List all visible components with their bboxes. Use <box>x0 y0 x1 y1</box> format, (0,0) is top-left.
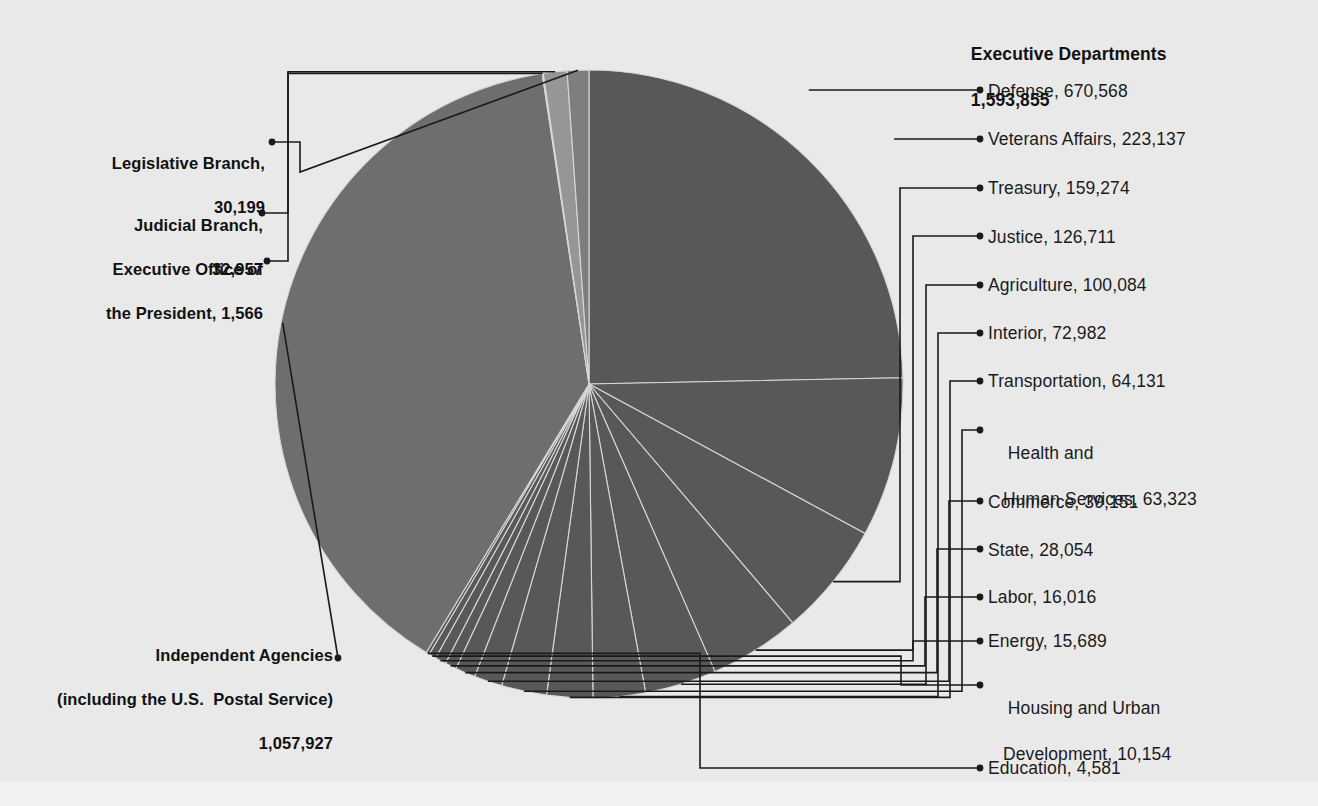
leader-dot <box>977 765 984 772</box>
label-education: Education, 4,581 <box>988 757 1121 780</box>
label-interior: Interior, 72,982 <box>988 322 1106 345</box>
label-housing-and-urban-development: Housing and Urban Development, 10,154 <box>988 674 1171 806</box>
label-commerce: Commerce, 39,151 <box>988 491 1138 514</box>
label-eop-line2: the President, 1,566 <box>106 304 263 322</box>
leader-dot <box>977 546 984 553</box>
label-eop-line1: Executive Office of <box>113 260 263 278</box>
label-justice: Justice, 126,711 <box>988 226 1116 249</box>
leader-dot <box>977 427 984 434</box>
group-title-executive-departments: Executive Departments 1,593,855 <box>951 20 1167 135</box>
label-agriculture: Agriculture, 100,084 <box>988 274 1147 297</box>
label-independent-line2: (including the U.S. Postal Service) <box>57 690 333 708</box>
label-executive-office-of-the-president: Executive Office of the President, 1,566 <box>20 236 263 346</box>
leader-dot <box>977 682 984 689</box>
leader-dot <box>264 258 271 265</box>
leader-dot <box>977 378 984 385</box>
label-transportation: Transportation, 64,131 <box>988 370 1166 393</box>
leader-dot <box>977 185 984 192</box>
leader-dot <box>977 594 984 601</box>
pie-wedges <box>275 70 903 698</box>
label-health-and-human-services: Health and Human Services, 63,323 <box>988 419 1197 557</box>
label-state: State, 28,054 <box>988 539 1093 562</box>
group-title-text: Executive Departments <box>971 44 1167 64</box>
label-defense: Defense, 670,568 <box>988 80 1128 103</box>
leader-dot <box>269 139 276 146</box>
leader-dot <box>977 638 984 645</box>
leader-dot <box>977 136 984 143</box>
label-independent-line3: 1,057,927 <box>259 734 333 752</box>
label-independent-line1: Independent Agencies <box>156 646 333 664</box>
label-judicial-line1: Judicial Branch, <box>134 216 263 234</box>
label-energy: Energy, 15,689 <box>988 630 1107 653</box>
chart-canvas: Executive Departments 1,593,855 Defense,… <box>0 0 1318 806</box>
label-veterans-affairs: Veterans Affairs, 223,137 <box>988 128 1186 151</box>
leader-dot <box>977 330 984 337</box>
leader-dot <box>977 498 984 505</box>
label-legislative-line1: Legislative Branch, <box>112 154 265 172</box>
label-hud-line1: Housing and Urban <box>1008 698 1161 718</box>
leader-dot <box>977 233 984 240</box>
label-hhs-line1: Health and <box>1008 443 1094 463</box>
leader-dot <box>335 655 342 662</box>
pie-slice <box>589 70 903 384</box>
label-independent-agencies: Independent Agencies (including the U.S.… <box>8 622 333 776</box>
label-labor: Labor, 16,016 <box>988 586 1096 609</box>
leader-dot <box>977 282 984 289</box>
label-treasury: Treasury, 159,274 <box>988 177 1130 200</box>
